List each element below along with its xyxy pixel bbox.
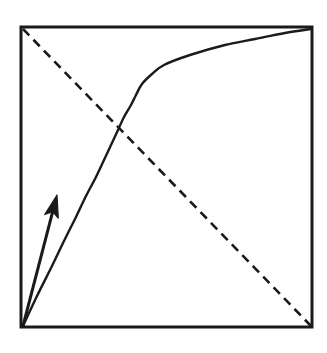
figure-container bbox=[0, 0, 327, 353]
figure-canvas bbox=[0, 0, 327, 353]
figure-background bbox=[0, 0, 327, 353]
